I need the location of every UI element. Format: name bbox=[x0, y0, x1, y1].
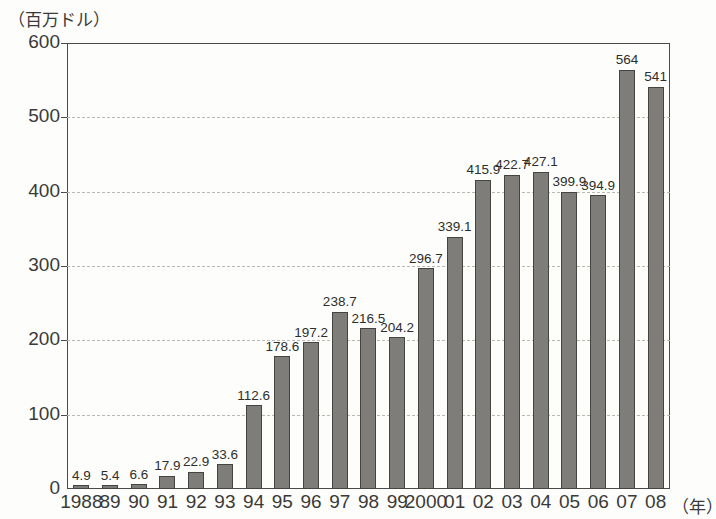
bar[interactable] bbox=[246, 405, 262, 489]
bar[interactable] bbox=[590, 195, 606, 489]
bar-value-label: 296.7 bbox=[409, 252, 443, 266]
bar-slot: 22.9 bbox=[182, 43, 211, 489]
bar-slot: 541 bbox=[641, 43, 670, 489]
x-tick-label: 06 bbox=[588, 491, 609, 513]
bar-slot: 17.9 bbox=[153, 43, 182, 489]
y-tick-label: 100 bbox=[0, 403, 60, 425]
bar-slot: 422.7 bbox=[498, 43, 527, 489]
bar[interactable] bbox=[447, 237, 463, 489]
bar-slot: 394.9 bbox=[584, 43, 613, 489]
bar-value-label: 6.6 bbox=[129, 468, 148, 482]
bar-value-label: 112.6 bbox=[237, 389, 270, 403]
x-tick-label: 94 bbox=[243, 491, 264, 513]
x-tick-label: 08 bbox=[645, 491, 666, 513]
x-axis-unit-label: （年） bbox=[672, 493, 716, 518]
y-tick-label: 200 bbox=[0, 328, 60, 350]
bar-value-label: 564 bbox=[616, 53, 639, 67]
x-tick-label: 01 bbox=[444, 491, 465, 513]
y-tick-label: 500 bbox=[0, 105, 60, 127]
x-tick-label: 93 bbox=[214, 491, 235, 513]
x-tick-label: 1988 bbox=[60, 491, 102, 513]
x-tick-label: 90 bbox=[128, 491, 149, 513]
bar-slot: 564 bbox=[613, 43, 642, 489]
bar-slot: 33.6 bbox=[211, 43, 240, 489]
y-tick-label: 600 bbox=[0, 31, 60, 53]
bar[interactable] bbox=[533, 172, 549, 489]
x-tick-labels-group: 1988899091929394959697989920000102030405… bbox=[67, 491, 670, 519]
bar-slot: 216.5 bbox=[354, 43, 383, 489]
bar-value-label: 541 bbox=[644, 70, 667, 84]
y-axis-unit-label: （百万ドル） bbox=[8, 6, 110, 31]
bar[interactable] bbox=[188, 472, 204, 489]
bar[interactable] bbox=[217, 464, 233, 489]
bar-slot: 427.1 bbox=[526, 43, 555, 489]
x-tick-label: 04 bbox=[530, 491, 551, 513]
bar[interactable] bbox=[303, 342, 319, 489]
bar-slot: 296.7 bbox=[412, 43, 441, 489]
bars-group: 4.95.46.617.922.933.6112.6178.6197.2238.… bbox=[67, 43, 670, 489]
bar[interactable] bbox=[389, 337, 405, 489]
bar-slot: 178.6 bbox=[268, 43, 297, 489]
bar-value-label: 4.9 bbox=[72, 469, 91, 483]
bar[interactable] bbox=[619, 70, 635, 489]
x-tick-label: 07 bbox=[616, 491, 637, 513]
bar[interactable] bbox=[102, 485, 118, 489]
x-tick-label: 98 bbox=[358, 491, 379, 513]
bar-value-label: 17.9 bbox=[154, 459, 180, 473]
bar[interactable] bbox=[73, 485, 89, 489]
bar[interactable] bbox=[360, 328, 376, 489]
bar-slot: 399.9 bbox=[555, 43, 584, 489]
bar[interactable] bbox=[504, 175, 520, 489]
x-tick-label: 91 bbox=[157, 491, 178, 513]
x-tick-label: 96 bbox=[300, 491, 321, 513]
x-tick-label: 2000 bbox=[405, 491, 447, 513]
x-tick-label: 03 bbox=[501, 491, 522, 513]
bar-slot: 339.1 bbox=[440, 43, 469, 489]
bar[interactable] bbox=[274, 356, 290, 489]
bar-value-label: 238.7 bbox=[323, 295, 357, 309]
bar-slot: 197.2 bbox=[297, 43, 326, 489]
bar-slot: 112.6 bbox=[239, 43, 268, 489]
x-tick-label: 97 bbox=[329, 491, 350, 513]
x-tick-label: 05 bbox=[559, 491, 580, 513]
bar[interactable] bbox=[332, 312, 348, 489]
bar-value-label: 22.9 bbox=[183, 455, 209, 469]
bar-slot: 415.9 bbox=[469, 43, 498, 489]
bar-value-label: 33.6 bbox=[212, 448, 238, 462]
bar-value-label: 204.2 bbox=[380, 321, 414, 335]
bar[interactable] bbox=[418, 268, 434, 489]
y-tick-label: 400 bbox=[0, 180, 60, 202]
bar[interactable] bbox=[475, 180, 491, 489]
bar[interactable] bbox=[648, 87, 664, 489]
bar[interactable] bbox=[561, 192, 577, 489]
bar[interactable] bbox=[131, 484, 147, 489]
bar-value-label: 394.9 bbox=[581, 179, 615, 193]
bar-value-label: 5.4 bbox=[101, 469, 120, 483]
bar-slot: 238.7 bbox=[325, 43, 354, 489]
x-tick-label: 02 bbox=[473, 491, 494, 513]
bar-value-label: 178.6 bbox=[265, 340, 299, 354]
bar-value-label: 197.2 bbox=[294, 326, 328, 340]
bar-slot: 204.2 bbox=[383, 43, 412, 489]
x-tick-label: 92 bbox=[186, 491, 207, 513]
x-tick-label: 95 bbox=[272, 491, 293, 513]
x-tick-label: 89 bbox=[99, 491, 120, 513]
bar-slot: 5.4 bbox=[96, 43, 125, 489]
y-tick-label: 0 bbox=[0, 477, 60, 499]
bar-slot: 4.9 bbox=[67, 43, 96, 489]
bar-value-label: 427.1 bbox=[524, 155, 558, 169]
y-tick-label: 300 bbox=[0, 254, 60, 276]
bar-value-label: 339.1 bbox=[438, 220, 472, 234]
bar[interactable] bbox=[159, 476, 175, 489]
bar-slot: 6.6 bbox=[124, 43, 153, 489]
